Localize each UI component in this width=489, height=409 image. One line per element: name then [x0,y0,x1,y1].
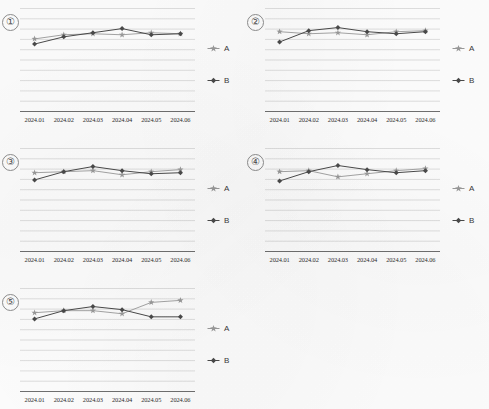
star-marker-icon [207,183,220,194]
x-axis-tick-label: 2024.02 [294,116,323,123]
diamond-marker [178,170,183,175]
diamond-marker [32,177,37,182]
chart-legend: AB [207,322,230,366]
star-marker-icon [207,43,220,54]
x-axis-tick-label: 2024.05 [382,116,411,123]
panel-index-badge: ⑤ [2,294,19,311]
legend-label: A [224,184,230,193]
x-axis-tick-label: 2024.01 [20,396,49,403]
panel-index-badge: ④ [247,154,264,171]
legend-item-a[interactable]: A [207,182,230,194]
chart-panel-2: ②2024.012024.022024.032024.042024.052024… [245,0,489,140]
chart-legend: AB [207,182,230,226]
legend-item-b[interactable]: B [452,214,475,226]
diamond-marker [178,314,183,319]
legend-item-b[interactable]: B [452,74,475,86]
x-axis-tick-label: 2024.06 [166,116,195,123]
legend-label: A [224,324,230,333]
panel-index-badge: ① [2,14,19,31]
chart-legend: AB [452,182,475,226]
x-axis-tick-label: 2024.04 [352,256,381,263]
chart-panel-1: ①2024.012024.022024.032024.042024.052024… [0,0,245,140]
x-axis-tick-label: 2024.06 [411,116,440,123]
diamond-marker-icon [207,355,220,366]
series-line-B [280,28,426,42]
legend-label: A [224,44,230,53]
series-line-A [35,300,181,313]
x-axis-tick-label: 2024.06 [166,256,195,263]
legend-item-a[interactable]: A [452,182,475,194]
plot-area [265,8,442,113]
star-marker [119,31,125,37]
legend-label: B [224,216,230,225]
diamond-marker [90,30,95,35]
x-axis-tick-label: 2024.05 [137,396,166,403]
diamond-marker [277,39,282,44]
legend-item-a[interactable]: A [207,42,230,54]
star-marker [31,169,37,175]
legend-label: B [469,216,475,225]
series-line-A [35,33,181,39]
diamond-marker [90,304,95,309]
star-marker [31,309,37,315]
star-marker [335,174,341,180]
x-axis-tick-label: 2024.01 [265,256,294,263]
diamond-marker [32,42,37,47]
x-axis-tick-label: 2024.05 [382,256,411,263]
legend-item-b[interactable]: B [207,214,230,226]
diamond-marker [120,26,125,31]
diamond-marker [61,169,66,174]
series-line-B [35,167,181,180]
series-line-A [280,169,426,177]
legend-item-b[interactable]: B [207,74,230,86]
legend-item-b[interactable]: B [207,354,230,366]
series-line-A [280,31,426,35]
series-line-B [35,307,181,319]
panel-index-badge: ② [247,14,264,31]
chart-panel-3: ③2024.012024.022024.032024.042024.052024… [0,140,245,280]
chart-legend: AB [452,42,475,86]
plot-area [20,288,197,393]
legend-item-a[interactable]: A [207,322,230,334]
panel-index-badge: ③ [2,154,19,171]
x-axis-tick-label: 2024.03 [78,116,107,123]
x-axis-tick-label: 2024.03 [323,256,352,263]
x-axis-tick-label: 2024.01 [265,116,294,123]
diamond-marker-icon [452,215,465,226]
star-marker [148,299,154,305]
x-axis-tick-label: 2024.03 [78,396,107,403]
plot-area [20,148,197,253]
diamond-marker-icon [207,215,220,226]
diamond-marker [365,29,370,34]
diamond-marker [120,307,125,312]
chart-panel-5: ⑤2024.012024.022024.032024.042024.052024… [0,280,245,409]
plot-area [265,148,442,253]
star-marker [177,297,183,303]
chart-panel-4: ④2024.012024.022024.032024.042024.052024… [245,140,489,280]
legend-label: A [469,44,475,53]
legend-item-a[interactable]: A [452,42,475,54]
x-axis-tick-label: 2024.02 [49,256,78,263]
diamond-marker [365,167,370,172]
diamond-marker [90,164,95,169]
series-line-B [280,166,426,181]
star-marker-icon [452,43,465,54]
x-axis-tick-label: 2024.05 [137,116,166,123]
x-axis-tick-label: 2024.04 [107,256,136,263]
x-axis-tick-label: 2024.02 [49,396,78,403]
star-marker-icon [452,183,465,194]
x-axis-tick-label: 2024.03 [78,256,107,263]
chart-panel-grid: ①2024.012024.022024.032024.042024.052024… [0,0,489,409]
legend-label: B [224,356,230,365]
diamond-marker [32,316,37,321]
x-axis-tick-labels: 2024.012024.022024.032024.042024.052024.… [20,256,195,263]
diamond-marker-icon [207,75,220,86]
legend-label: B [469,76,475,85]
diamond-marker [178,31,183,36]
x-axis-tick-label: 2024.05 [137,256,166,263]
diamond-marker [149,314,154,319]
diamond-marker-icon [452,75,465,86]
x-axis-tick-label: 2024.02 [294,256,323,263]
plot-area [20,8,197,113]
x-axis-tick-label: 2024.01 [20,256,49,263]
